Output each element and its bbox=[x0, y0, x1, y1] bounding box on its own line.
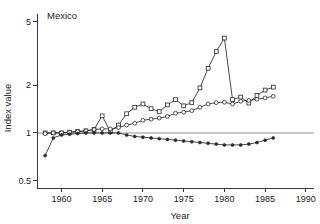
data-point bbox=[158, 137, 161, 140]
data-point bbox=[133, 121, 137, 125]
data-point bbox=[100, 114, 104, 118]
data-point bbox=[264, 139, 267, 142]
y-tick-label: 0.5 bbox=[18, 176, 31, 186]
data-point bbox=[214, 50, 218, 54]
data-point bbox=[190, 109, 194, 113]
data-point bbox=[222, 100, 226, 104]
data-point bbox=[157, 110, 161, 114]
data-point bbox=[231, 143, 234, 146]
data-point bbox=[150, 136, 153, 139]
data-point bbox=[174, 98, 178, 102]
x-tick-label: 1965 bbox=[92, 194, 112, 204]
data-point bbox=[206, 66, 210, 70]
data-point bbox=[92, 128, 96, 132]
chart-panel: 0.51251960196519701975198019851990 Mexic… bbox=[0, 0, 320, 224]
data-point bbox=[255, 94, 259, 98]
data-point bbox=[133, 135, 136, 138]
data-point bbox=[239, 95, 243, 99]
data-point bbox=[117, 126, 121, 130]
data-point bbox=[271, 94, 275, 98]
data-point bbox=[174, 111, 178, 115]
data-point bbox=[68, 133, 71, 136]
data-point bbox=[231, 98, 235, 102]
data-point bbox=[263, 88, 267, 92]
data-point bbox=[93, 131, 96, 134]
data-point bbox=[149, 107, 153, 111]
data-point bbox=[207, 142, 210, 145]
data-point bbox=[76, 132, 79, 135]
data-point bbox=[222, 36, 226, 40]
data-point bbox=[51, 131, 55, 135]
data-point bbox=[263, 96, 267, 100]
data-point bbox=[215, 143, 218, 146]
data-point bbox=[198, 105, 202, 109]
data-point bbox=[141, 102, 145, 106]
series-series-middle bbox=[43, 94, 275, 135]
data-point bbox=[149, 117, 153, 121]
data-point bbox=[133, 105, 137, 109]
data-point bbox=[182, 139, 185, 142]
data-point bbox=[157, 116, 161, 120]
data-point bbox=[247, 99, 251, 103]
x-tick-label: 1990 bbox=[296, 194, 316, 204]
data-point bbox=[198, 86, 202, 90]
data-point bbox=[272, 136, 275, 139]
data-point bbox=[165, 103, 169, 107]
data-point bbox=[141, 118, 145, 122]
data-point bbox=[174, 139, 177, 142]
data-point bbox=[125, 133, 128, 136]
data-point bbox=[125, 123, 129, 127]
data-point bbox=[52, 136, 55, 139]
data-point bbox=[206, 102, 210, 106]
data-point bbox=[247, 143, 250, 146]
series-series-low bbox=[44, 131, 275, 157]
data-point bbox=[190, 101, 194, 105]
data-series-layer bbox=[43, 36, 275, 157]
data-point bbox=[166, 138, 169, 141]
y-tick-label: 5 bbox=[26, 17, 31, 27]
data-point bbox=[43, 132, 47, 136]
x-tick-label: 1960 bbox=[51, 194, 71, 204]
x-axis-label: Year bbox=[170, 210, 189, 221]
data-point bbox=[108, 127, 112, 131]
data-point bbox=[182, 104, 186, 108]
x-tick-label: 1975 bbox=[174, 194, 194, 204]
data-point bbox=[101, 131, 104, 134]
y-tick-label: 2 bbox=[26, 80, 31, 90]
data-point bbox=[165, 114, 169, 118]
data-point bbox=[125, 112, 129, 116]
y-tick-label: 1 bbox=[26, 128, 31, 138]
data-point bbox=[60, 133, 63, 136]
data-point bbox=[198, 141, 201, 144]
data-point bbox=[255, 97, 259, 101]
x-tick-label: 1980 bbox=[214, 194, 234, 204]
chart-svg: 0.51251960196519701975198019851990 Mexic… bbox=[0, 0, 320, 224]
data-point bbox=[271, 85, 275, 89]
data-point bbox=[239, 143, 242, 146]
data-point bbox=[84, 131, 87, 134]
axes-layer bbox=[33, 14, 314, 192]
y-axis-label: Index value bbox=[2, 84, 13, 133]
data-point bbox=[190, 140, 193, 143]
data-point bbox=[255, 141, 258, 144]
axis-labels-layer: 0.51251960196519701975198019851990 bbox=[18, 17, 315, 204]
data-point bbox=[182, 110, 186, 114]
data-point bbox=[109, 131, 112, 134]
data-point bbox=[231, 102, 235, 106]
data-point bbox=[141, 136, 144, 139]
data-point bbox=[117, 131, 120, 134]
data-point bbox=[223, 143, 226, 146]
data-point bbox=[44, 154, 47, 157]
data-point bbox=[214, 101, 218, 105]
page-title: Mexico bbox=[47, 10, 77, 21]
x-tick-label: 1970 bbox=[133, 194, 153, 204]
data-point bbox=[100, 127, 104, 131]
data-point bbox=[239, 99, 243, 103]
x-tick-label: 1985 bbox=[255, 194, 275, 204]
